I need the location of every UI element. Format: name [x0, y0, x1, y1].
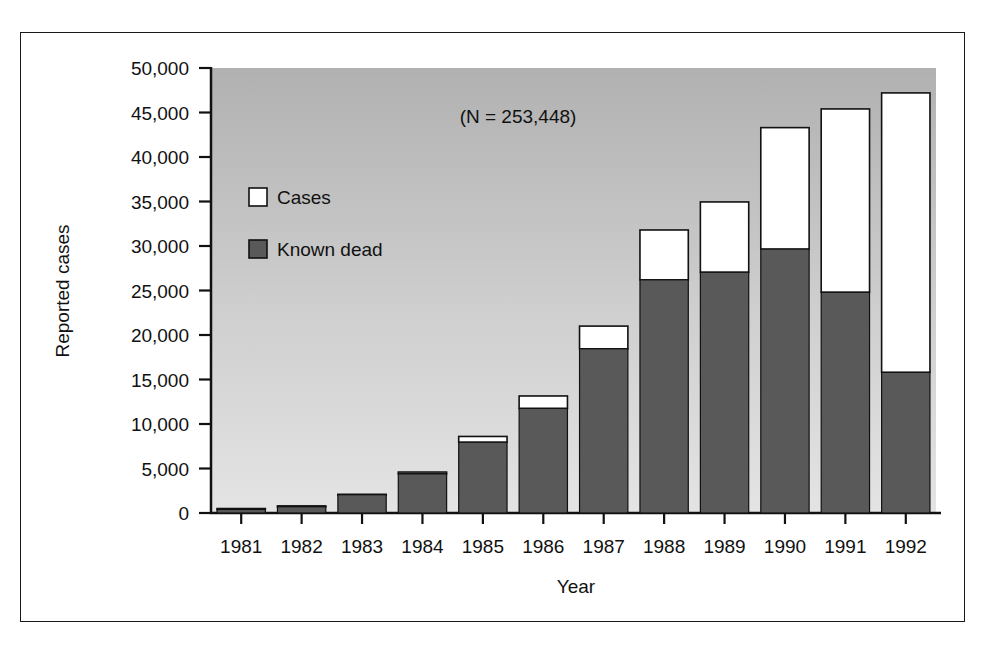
sample-size-annotation: (N = 253,448): [460, 106, 577, 127]
stacked-bar-chart: 05,00010,00015,00020,00025,00030,00035,0…: [21, 33, 963, 620]
legend-label-known-dead: Known dead: [277, 239, 383, 260]
stacked-bar: [821, 109, 869, 513]
stacked-bar: [882, 93, 930, 513]
bar-segment-cases: [519, 396, 567, 408]
x-tick-label: 1982: [280, 536, 322, 557]
x-tick-label: 1991: [824, 536, 866, 557]
bar-segment-cases: [882, 93, 930, 372]
stacked-bar: [338, 494, 386, 513]
legend-swatch-known-dead: [249, 240, 267, 258]
y-tick-label: 25,000: [131, 281, 189, 302]
bar-segment-cases: [580, 326, 628, 349]
y-tick-label: 35,000: [131, 192, 189, 213]
bar-segment-cases: [821, 109, 869, 292]
x-tick-label: 1986: [522, 536, 564, 557]
bar-segment-cases: [459, 436, 507, 442]
bar-segment-known-dead: [821, 292, 869, 513]
x-axis-ticks: 1981198219831984198519861987198819891990…: [220, 513, 927, 557]
x-tick-label: 1981: [220, 536, 262, 557]
stacked-bar: [700, 202, 748, 513]
bar-segment-known-dead: [640, 280, 688, 513]
stacked-bar: [217, 509, 265, 513]
y-tick-label: 45,000: [131, 103, 189, 124]
y-tick-label: 5,000: [141, 459, 189, 480]
figure-page: 05,00010,00015,00020,00025,00030,00035,0…: [0, 0, 989, 650]
bar-segment-known-dead: [398, 474, 446, 513]
x-tick-label: 1983: [341, 536, 383, 557]
legend-swatch-cases: [249, 188, 267, 206]
y-tick-label: 20,000: [131, 325, 189, 346]
y-tick-label: 40,000: [131, 147, 189, 168]
legend-label-cases: Cases: [277, 187, 331, 208]
y-tick-label: 10,000: [131, 414, 189, 435]
x-axis-title: Year: [557, 576, 596, 597]
figure-frame: 05,00010,00015,00020,00025,00030,00035,0…: [20, 32, 965, 622]
x-tick-label: 1987: [583, 536, 625, 557]
x-tick-label: 1985: [462, 536, 504, 557]
bar-segment-known-dead: [761, 249, 809, 513]
bar-segment-known-dead: [217, 509, 265, 513]
y-tick-label: 30,000: [131, 236, 189, 257]
x-tick-label: 1984: [401, 536, 444, 557]
stacked-bar: [519, 396, 567, 513]
stacked-bar: [580, 326, 628, 513]
bar-segment-known-dead: [519, 408, 567, 513]
bar-segment-cases: [700, 202, 748, 272]
y-tick-label: 50,000: [131, 58, 189, 79]
stacked-bar: [761, 128, 809, 513]
y-tick-label: 0: [178, 503, 189, 524]
stacked-bar: [398, 472, 446, 513]
bar-segment-known-dead: [277, 507, 325, 513]
y-axis-ticks: 05,00010,00015,00020,00025,00030,00035,0…: [131, 58, 211, 524]
bar-segment-known-dead: [338, 495, 386, 513]
bar-segment-known-dead: [580, 349, 628, 513]
x-tick-label: 1988: [643, 536, 685, 557]
bar-segment-known-dead: [459, 442, 507, 513]
stacked-bar: [277, 506, 325, 513]
x-tick-label: 1992: [885, 536, 927, 557]
x-tick-label: 1989: [703, 536, 745, 557]
y-axis-title: Reported cases: [52, 224, 73, 357]
bar-segment-cases: [761, 128, 809, 249]
bar-segment-known-dead: [882, 372, 930, 513]
bar-segment-cases: [640, 230, 688, 280]
stacked-bar: [459, 436, 507, 513]
y-tick-label: 15,000: [131, 370, 189, 391]
x-tick-label: 1990: [764, 536, 806, 557]
stacked-bar: [640, 230, 688, 513]
bar-segment-known-dead: [700, 272, 748, 513]
